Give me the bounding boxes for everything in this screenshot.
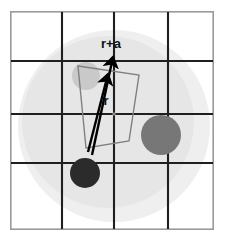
vector-r-label: r bbox=[103, 93, 108, 108]
particle-mid-gray bbox=[141, 115, 181, 155]
particle-light-gray bbox=[72, 62, 100, 90]
vector-r-plus-a-label: r+a bbox=[101, 36, 122, 51]
figure-canvas: r+a r bbox=[0, 0, 226, 241]
particle-dark bbox=[70, 158, 100, 188]
origin-dot bbox=[112, 112, 116, 116]
figure-root: r+a r bbox=[0, 0, 226, 241]
